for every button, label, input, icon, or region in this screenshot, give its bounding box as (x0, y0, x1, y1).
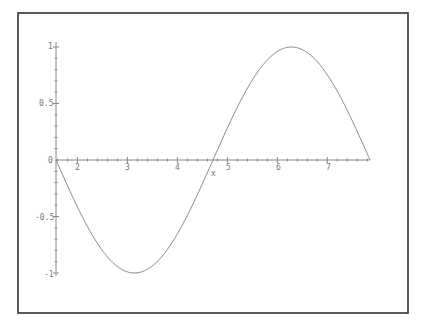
y-tick-label-neg-0.5: -0.5 (35, 213, 54, 222)
x-tick-label-3: 3 (125, 163, 130, 172)
x-tick-label-2: 2 (75, 163, 80, 172)
x-tick-label-7: 7 (326, 163, 331, 172)
y-tick-label-1: 1 (48, 42, 53, 51)
x-tick-label-5: 5 (226, 163, 231, 172)
x-tick-label-6: 6 (276, 163, 281, 172)
y-tick-label-0.5: 0.5 (39, 99, 54, 108)
x-tick-label-4: 4 (175, 163, 180, 172)
plot-canvas: 0 2 3 4 5 6 7 1 0.5 -0.5 -1 x (0, 0, 427, 326)
y-tick-label-neg-1: -1 (44, 270, 54, 279)
x-axis-title: x (211, 169, 216, 178)
origin-label: 0 (48, 156, 53, 165)
